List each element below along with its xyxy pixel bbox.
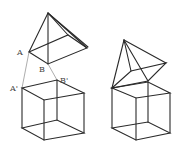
guide-b-to-b-prime: [48, 64, 57, 80]
right-figure: [112, 40, 170, 140]
left-pyramid-edge-right-2: [49, 14, 88, 47]
left-pyramid-edge-a: [29, 13, 48, 52]
left-cube-bottom: [22, 120, 84, 140]
left-figure: A B B' A': [9, 13, 88, 140]
guide-a-to-a-prime: [22, 52, 29, 88]
left-pyramid: [29, 13, 88, 64]
right-cube-top: [112, 82, 170, 98]
right-cube-bottom: [112, 122, 170, 140]
label-a-prime: A': [9, 84, 18, 93]
right-pyramid-base: [112, 63, 166, 88]
right-pyramid-edge-1: [112, 40, 124, 88]
right-pyramid: [112, 40, 166, 88]
left-cube: [22, 80, 84, 140]
label-b-prime: B': [60, 76, 68, 85]
label-a: A: [16, 48, 23, 57]
diagram-svg: A B B' A': [0, 0, 179, 147]
label-b: B: [39, 65, 45, 74]
right-cube: [112, 82, 170, 140]
right-pyramid-edge-2: [124, 40, 131, 71]
diagram-canvas: A B B' A': [0, 0, 179, 147]
left-cube-top: [22, 80, 84, 100]
